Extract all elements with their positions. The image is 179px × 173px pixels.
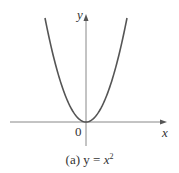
figure-caption: (a) y = x2 [0, 152, 179, 168]
caption-prefix: (a) [66, 152, 84, 167]
x-axis-arrow-icon [160, 120, 167, 125]
caption-eq: = [90, 152, 104, 167]
plot-area [0, 0, 179, 173]
caption-exponent: 2 [109, 152, 113, 161]
y-axis-label: y [77, 7, 83, 23]
origin-label: 0 [75, 124, 82, 140]
x-axis-label: x [162, 125, 168, 141]
y-axis-arrow-icon [84, 14, 89, 21]
